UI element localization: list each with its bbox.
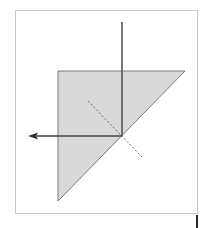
text-cursor-icon [196, 215, 198, 228]
prism-reflection-diagram [0, 0, 206, 228]
